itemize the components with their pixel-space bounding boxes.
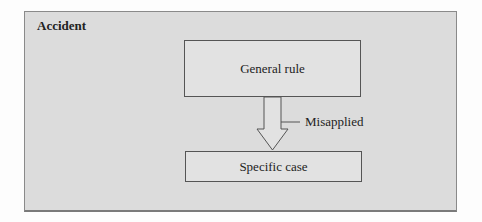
misapplied-label: Misapplied: [305, 114, 364, 130]
specific-case-label: Specific case: [239, 159, 307, 175]
specific-case-box: Specific case: [185, 151, 362, 182]
down-arrow-icon: [0, 0, 482, 222]
